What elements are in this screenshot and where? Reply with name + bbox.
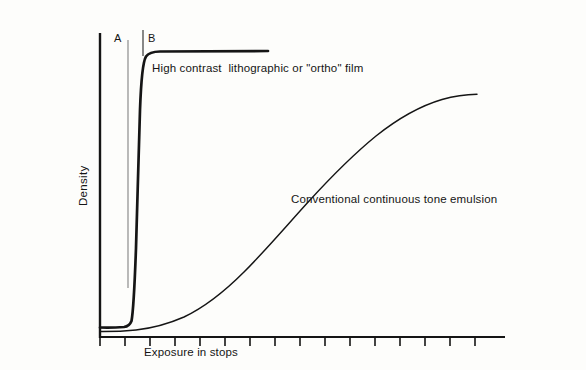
marker-label-a: A [114, 32, 121, 44]
curve-high-contrast-litho [100, 51, 268, 328]
marker-label-b: B [148, 32, 155, 44]
figure-canvas: A B High contrast lithographic or "ortho… [0, 0, 586, 370]
curve-conventional-tone [100, 94, 477, 331]
curve-label-high-contrast: High contrast lithographic or "ortho" fi… [152, 62, 363, 74]
curve-label-conventional: Conventional continuous tone emulsion [291, 193, 497, 205]
x-axis-label: Exposure in stops [144, 346, 238, 358]
y-axis-label: Density [77, 166, 89, 206]
x-axis-ticks [100, 337, 475, 346]
